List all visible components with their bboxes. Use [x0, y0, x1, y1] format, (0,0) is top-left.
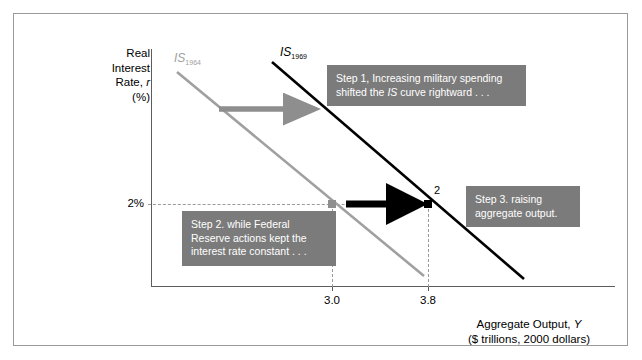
figure-frame: Real Interest Rate, r (%) Aggregate Outp… — [13, 13, 628, 346]
is-1969-label-text: IS — [280, 45, 291, 59]
callout-step2-line3: interest rate constant . . . — [191, 245, 307, 257]
callout-step2-line1: Step 2. while Federal — [191, 218, 290, 230]
is-curve-1969-label: IS1969 — [280, 45, 307, 60]
callout-step1-is-variable: IS — [387, 86, 397, 98]
is-curve-1964-label: IS1964 — [174, 51, 201, 66]
callout-step-1: Step 1, Increasing military spending shi… — [327, 65, 526, 106]
callout-step2-line2: Reserve actions kept the — [191, 232, 307, 244]
equilibrium-point-1-marker — [328, 200, 336, 208]
callout-step1-line2-prefix: shifted the — [336, 86, 387, 98]
callout-step3-line2: aggregate output. — [475, 207, 557, 219]
is-1969-label-subscript: 1969 — [291, 53, 307, 60]
equilibrium-point-2-label: 2 — [434, 184, 440, 196]
callout-step-3: Step 3. raising aggregate output. — [466, 186, 580, 227]
callout-step3-line1: Step 3. raising — [475, 193, 542, 205]
callout-step1-line2-suffix: curve rightward . . . — [397, 86, 489, 98]
is-1964-label-subscript: 1964 — [185, 59, 201, 66]
callout-step-2: Step 2. while Federal Reserve actions ke… — [182, 211, 336, 266]
equilibrium-point-2-marker — [424, 200, 432, 208]
callout-step1-line1: Step 1, Increasing military spending — [336, 72, 502, 84]
figure-container: Real Interest Rate, r (%) Aggregate Outp… — [0, 0, 642, 360]
is-1964-label-text: IS — [174, 51, 185, 65]
